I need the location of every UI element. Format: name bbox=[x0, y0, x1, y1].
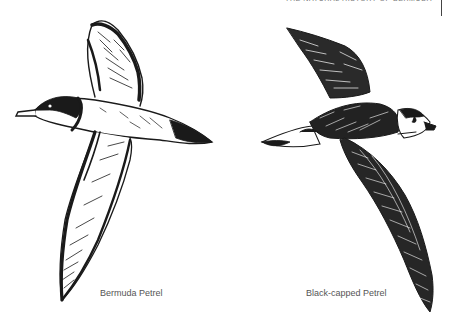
bird-illustrations bbox=[0, 0, 451, 330]
caption-bermuda-petrel: Bermuda Petrel bbox=[100, 288, 163, 298]
black-capped-petrel-drawing bbox=[262, 28, 436, 312]
bermuda-petrel-drawing bbox=[16, 21, 212, 300]
caption-black-capped-petrel: Black-capped Petrel bbox=[306, 288, 387, 298]
